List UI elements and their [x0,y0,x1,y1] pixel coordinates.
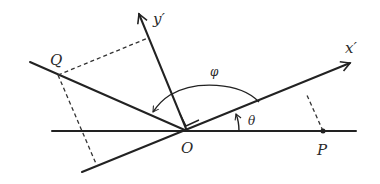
right-angle-marker [180,114,199,126]
label-origin: O [181,139,193,157]
rotation-diagram: y′ x′ Q φ θ O P [0,0,380,184]
label-p: P [316,141,328,159]
label-x-prime: x′ [345,39,357,57]
label-theta: θ [248,114,256,128]
x-prime-axis [82,63,350,172]
theta-arc [236,114,239,131]
label-phi: φ [210,65,219,79]
label-q: Q [50,51,62,69]
dashed-p-to-x-prime [306,93,323,131]
label-y-prime: y′ [152,10,165,28]
dashed-q-to-y-prime [58,38,148,75]
point-p-dot [321,129,326,134]
